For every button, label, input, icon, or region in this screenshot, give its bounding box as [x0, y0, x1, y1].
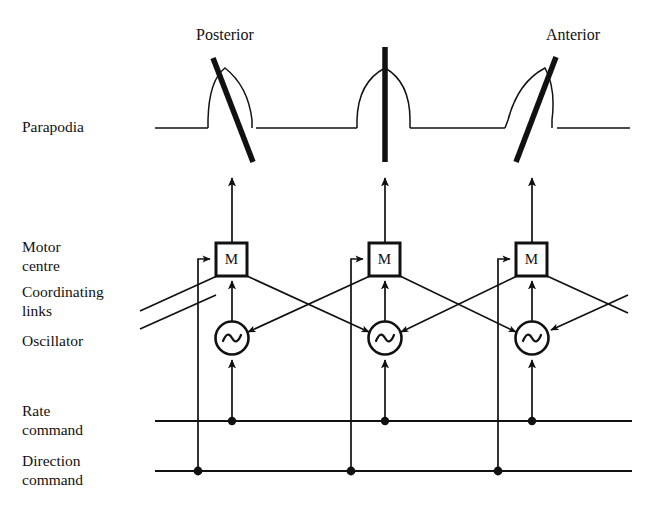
motor-centre-label-1: M [378, 251, 391, 267]
label-coordinating-line2: links [22, 302, 52, 319]
motor-to-parapodium-arrows [232, 178, 532, 243]
label-rate-line2: command [22, 421, 83, 438]
rate-junction-dot-0 [228, 417, 236, 425]
rate-junction-dot-2 [528, 417, 536, 425]
oscillator-to-motor-arrows [232, 281, 532, 322]
label-motor-centre-line2: centre [22, 257, 60, 274]
motor-centre-box-0[interactable]: M [216, 243, 247, 276]
oscillator-1[interactable] [369, 322, 402, 355]
parapodium-segment-0 [208, 58, 253, 162]
rate-junction-dot-1 [381, 417, 389, 425]
label-rate-line1: Rate [22, 402, 51, 419]
parapodium-segment-1 [357, 47, 410, 162]
figure-canvas: Posterior Anterior Parapodia Motor centr… [0, 0, 648, 525]
rate-command-bus [155, 417, 632, 425]
parapodium-segment-2 [505, 57, 556, 162]
motor-centre-label-0: M [225, 251, 238, 267]
rate-to-oscillator-arrows [232, 360, 532, 421]
label-coordinating-line1: Coordinating [22, 283, 104, 300]
motor-centre-box-2[interactable]: M [516, 243, 547, 276]
label-anterior: Anterior [546, 26, 601, 43]
oscillator-2[interactable] [516, 322, 549, 355]
label-motor-centre-line1: Motor [22, 238, 62, 255]
diagram-svg: Posterior Anterior Parapodia Motor centr… [0, 0, 648, 525]
motor-centre-label-2: M [525, 251, 538, 267]
label-direction-line1: Direction [22, 452, 81, 469]
direction-junction-dot-0 [194, 467, 203, 476]
motor-centre-box-1[interactable]: M [369, 243, 400, 276]
label-posterior: Posterior [196, 26, 254, 43]
direction-to-motor-links [198, 259, 510, 471]
direction-junction-dot-1 [347, 467, 356, 476]
direction-command-bus [155, 467, 632, 476]
label-parapodia: Parapodia [22, 118, 84, 135]
label-oscillator: Oscillator [22, 332, 84, 349]
label-direction-line2: command [22, 471, 83, 488]
oscillator-0[interactable] [216, 322, 249, 355]
direction-junction-dot-2 [494, 467, 503, 476]
